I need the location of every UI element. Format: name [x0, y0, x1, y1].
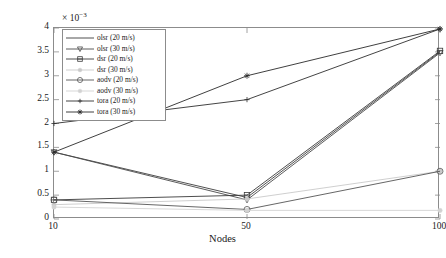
legend-label: olsr (30 m/s): [95, 45, 135, 53]
legend-item[interactable]: tora (20 m/s): [65, 96, 162, 107]
legend-line-sample: [65, 75, 95, 85]
legend-line-sample: [65, 86, 95, 96]
data-point-marker: [52, 205, 56, 209]
legend-label: olsr (20 m/s): [95, 34, 135, 42]
x-tick-label: 10: [48, 221, 58, 231]
data-point-marker: [51, 121, 56, 126]
legend-swatch: [65, 65, 95, 75]
data-point-marker: [78, 57, 83, 62]
legend-line-sample: [65, 107, 95, 117]
legend-line-sample: [65, 44, 95, 54]
legend-label: dsr (30 m/s): [95, 66, 133, 74]
data-point-marker: [78, 68, 82, 72]
data-point-marker: [77, 109, 82, 114]
legend-swatch: [65, 75, 95, 85]
legend-label: aodv (30 m/s): [95, 87, 138, 95]
legend-item[interactable]: tora (30 m/s): [65, 107, 162, 118]
legend-label: aodv (20 m/s): [95, 76, 138, 84]
legend-item[interactable]: aodv (30 m/s): [65, 86, 162, 97]
data-point-marker: [78, 89, 82, 93]
legend-label: tora (20 m/s): [95, 97, 135, 105]
data-point-marker: [244, 73, 250, 79]
legend-line-sample: [65, 65, 95, 75]
legend-label: dsr (20 m/s): [95, 55, 133, 63]
data-point-marker: [78, 99, 82, 103]
data-point-marker: [245, 197, 249, 201]
legend-item[interactable]: aodv (20 m/s): [65, 75, 162, 86]
legend-swatch: [65, 44, 95, 54]
legend-line-sample: [65, 54, 95, 64]
legend-item[interactable]: olsr (20 m/s): [65, 33, 162, 44]
legend-swatch: [65, 86, 95, 96]
data-point-marker: [244, 97, 249, 102]
x-tick-label: 50: [241, 221, 251, 231]
legend-line-sample: [65, 96, 95, 106]
legend-swatch: [65, 107, 95, 117]
legend-swatch: [65, 33, 95, 43]
legend-swatch: [65, 96, 95, 106]
series-aodv-30-m-s-: [52, 205, 442, 213]
legend: olsr (20 m/s)olsr (30 m/s)dsr (20 m/s)ds…: [62, 29, 166, 121]
x-tick-label: 100: [432, 221, 446, 231]
data-point-marker: [438, 208, 442, 212]
series-dsr-30-m-s-: [52, 169, 442, 207]
legend-item[interactable]: olsr (30 m/s): [65, 44, 162, 55]
legend-item[interactable]: dsr (20 m/s): [65, 54, 162, 65]
legend-swatch: [65, 54, 95, 64]
legend-line-sample: [65, 33, 95, 43]
data-point-marker: [245, 208, 249, 212]
series-aodv-20-m-s-: [51, 168, 443, 212]
legend-label: tora (30 m/s): [95, 108, 135, 116]
legend-item[interactable]: dsr (30 m/s): [65, 65, 162, 76]
